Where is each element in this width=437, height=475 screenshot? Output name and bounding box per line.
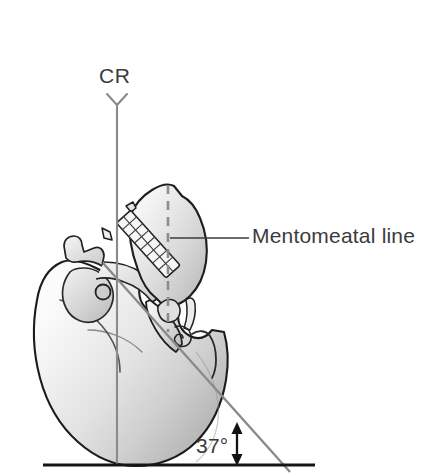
external-auditory-meatus (96, 285, 111, 300)
mentomeatal-line-label: Mentomeatal line (252, 225, 415, 246)
styloid-process (184, 298, 195, 330)
angle-measurement-label: 37° (196, 435, 228, 456)
figure-canvas: CR Mentomeatal line 37° (0, 0, 437, 475)
mastoid-process (64, 236, 104, 266)
central-ray-label: CR (99, 65, 130, 86)
double-headed-arrow-icon (232, 422, 243, 466)
anterior-nasal-spine (102, 228, 112, 240)
skull-illustration (34, 185, 228, 466)
